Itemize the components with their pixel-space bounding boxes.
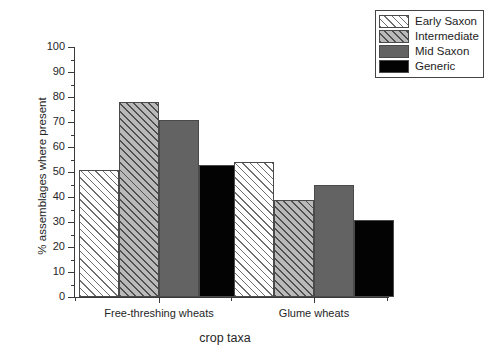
y-tick-minor-65 — [0, 135, 74, 136]
y-tick-90: 90 — [0, 72, 74, 73]
x-tick-minor-mark — [75, 297, 76, 301]
bar-generic-glume-wheats — [354, 220, 394, 298]
bar-mid-saxon-free-threshing-wheats — [159, 120, 199, 298]
plot-area — [74, 47, 389, 297]
y-tick-70: 70 — [0, 122, 74, 123]
y-tick-80: 80 — [0, 97, 74, 98]
y-tick-40: 40 — [0, 197, 74, 198]
y-tick-label: 0 — [59, 290, 65, 302]
y-tick-label: 10 — [53, 265, 65, 277]
y-tick-label: 70 — [53, 115, 65, 127]
y-tick-100: 100 — [0, 47, 74, 48]
bar-early-saxon-glume-wheats — [234, 162, 274, 297]
x-tick-mark — [159, 297, 160, 303]
x-tick-label-glume-wheats: Glume wheats — [279, 307, 349, 319]
y-tick-50: 50 — [0, 172, 74, 173]
y-tick-minor-25 — [0, 235, 74, 236]
bar-mid-saxon-glume-wheats — [314, 185, 354, 298]
y-tick-minor-35 — [0, 210, 74, 211]
bar-generic-free-threshing-wheats — [199, 165, 239, 298]
legend-swatch-icon — [379, 30, 409, 43]
y-tick-30: 30 — [0, 222, 74, 223]
legend-item-intermediate[interactable]: Intermediate — [379, 29, 479, 44]
bar-early-saxon-free-threshing-wheats — [79, 170, 119, 298]
y-tick-minor-15 — [0, 260, 74, 261]
bar-intermediate-free-threshing-wheats — [119, 102, 159, 297]
legend-label: Early Saxon — [415, 15, 477, 28]
chart-legend: Early SaxonIntermediateMid SaxonGeneric — [375, 10, 484, 78]
legend-label: Mid Saxon — [415, 45, 469, 58]
y-tick-20: 20 — [0, 247, 74, 248]
y-tick-label: 90 — [53, 65, 65, 77]
y-tick-minor-85 — [0, 85, 74, 86]
legend-swatch-icon — [379, 15, 409, 28]
y-tick-label: 60 — [53, 140, 65, 152]
bar-intermediate-glume-wheats — [274, 200, 314, 298]
chart-figure: % assemblages where present 010203040506… — [0, 0, 502, 362]
y-tick-0: 0 — [0, 297, 74, 298]
y-tick-minor-55 — [0, 160, 74, 161]
legend-swatch-icon — [379, 45, 409, 58]
y-tick-label: 20 — [53, 240, 65, 252]
y-tick-minor-5 — [0, 285, 74, 286]
legend-item-generic[interactable]: Generic — [379, 59, 479, 74]
y-tick-label: 30 — [53, 215, 65, 227]
y-tick-label: 40 — [53, 190, 65, 202]
y-tick-label: 80 — [53, 90, 65, 102]
y-tick-minor-45 — [0, 185, 74, 186]
x-tick-label-free-threshing-wheats: Free-threshing wheats — [104, 307, 213, 319]
y-tick-10: 10 — [0, 272, 74, 273]
legend-label: Intermediate — [415, 30, 479, 43]
y-tick-minor-95 — [0, 60, 74, 61]
legend-item-mid-saxon[interactable]: Mid Saxon — [379, 44, 479, 59]
x-tick-mark — [314, 297, 315, 303]
y-tick-label: 100 — [47, 40, 65, 52]
legend-swatch-icon — [379, 60, 409, 73]
y-tick-minor-75 — [0, 110, 74, 111]
x-tick-minor-mark — [387, 297, 388, 301]
legend-item-early-saxon[interactable]: Early Saxon — [379, 14, 479, 29]
y-tick-60: 60 — [0, 147, 74, 148]
x-tick-minor-mark — [231, 297, 232, 301]
y-tick-mark — [68, 297, 74, 298]
x-axis-title: crop taxa — [60, 331, 390, 345]
y-tick-label: 50 — [53, 165, 65, 177]
legend-label: Generic — [415, 60, 455, 73]
